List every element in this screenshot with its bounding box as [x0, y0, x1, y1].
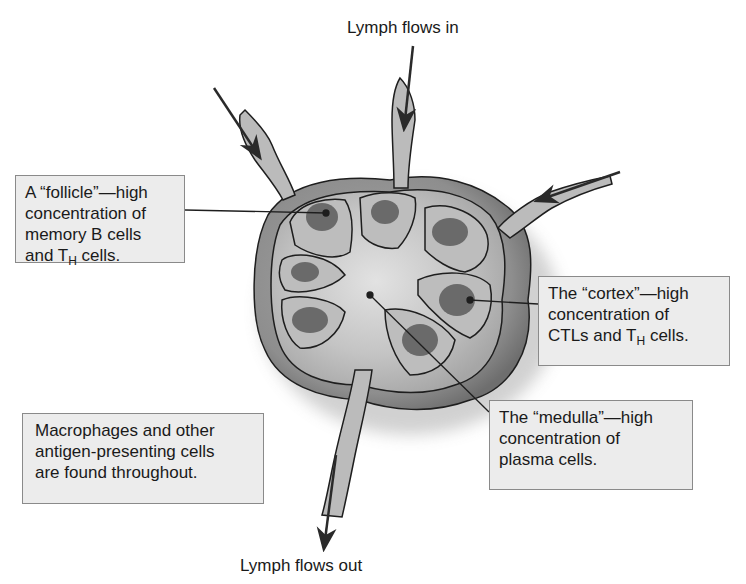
follicle	[291, 262, 319, 282]
lymph-flows-in-label: Lymph flows in	[347, 18, 459, 38]
text: and T	[25, 246, 68, 265]
text: cells.	[77, 246, 120, 265]
follicle	[292, 307, 328, 333]
callout-follicle: A “follicle”—high concentration of memor…	[15, 175, 185, 263]
afferent-vessel-top	[392, 78, 415, 188]
pointer-dot	[367, 292, 373, 298]
callout-macrophages: Macrophages and other antigen-presenting…	[22, 413, 264, 504]
callout-line: concentration of	[548, 304, 720, 325]
afferent-vessel-right	[498, 176, 612, 238]
follicle	[371, 200, 399, 224]
callout-line: The “medulla”—high	[499, 407, 683, 428]
subscript: H	[68, 254, 77, 268]
lymph-flows-out-label: Lymph flows out	[240, 556, 362, 576]
callout-cortex: The “cortex”—high concentration of CTLs …	[538, 276, 730, 366]
callout-line: memory B cells	[25, 224, 175, 245]
callout-line: are found throughout.	[35, 462, 254, 483]
callout-line: The “cortex”—high	[548, 283, 720, 304]
follicle	[432, 218, 468, 246]
callout-medulla: The “medulla”—high concentration of plas…	[489, 400, 693, 490]
follicle	[402, 324, 438, 356]
callout-line: and TH cells.	[25, 245, 175, 272]
callout-line: A “follicle”—high	[25, 182, 175, 203]
pointer-dot	[467, 297, 473, 303]
follicle	[306, 203, 338, 231]
callout-line: antigen-presenting cells	[35, 441, 254, 462]
callout-line: CTLs and TH cells.	[548, 325, 720, 352]
afferent-vessel-left	[240, 110, 295, 200]
callout-line: Macrophages and other	[35, 420, 254, 441]
pointer-dot	[323, 210, 329, 216]
text: cells.	[645, 326, 688, 345]
callout-line: concentration of	[499, 428, 683, 449]
callout-line: concentration of	[25, 203, 175, 224]
callout-line: plasma cells.	[499, 449, 683, 470]
subscript: H	[637, 334, 646, 348]
text: CTLs and T	[548, 326, 637, 345]
